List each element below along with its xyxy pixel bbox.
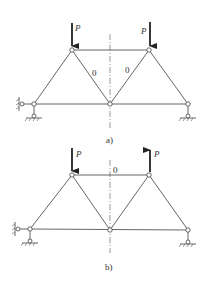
truss-a	[16, 34, 196, 128]
member-zero-right	[110, 50, 149, 104]
node-icon	[28, 227, 32, 231]
load-label: P	[153, 149, 160, 159]
node-icon	[108, 228, 112, 232]
figure-caption: b)	[105, 262, 113, 272]
node-icon	[70, 173, 74, 177]
node-icon	[32, 102, 36, 106]
member-zero-left	[72, 50, 110, 104]
load-label: P	[75, 149, 82, 159]
truss-b	[12, 160, 196, 253]
pin-icon	[20, 102, 24, 106]
load-label: P	[140, 26, 147, 36]
pin-icon	[28, 239, 32, 243]
zero-force-label: 0	[125, 65, 130, 75]
pin-icon	[32, 114, 36, 118]
pin-icon	[186, 114, 190, 118]
node-icon	[70, 48, 74, 52]
zero-force-label: 0	[92, 68, 97, 78]
node-icon	[186, 102, 190, 106]
node-icon	[186, 228, 190, 232]
member-right-diagonal	[149, 50, 188, 104]
node-icon	[108, 102, 112, 106]
pin-icon	[186, 240, 190, 244]
figure-caption: a)	[106, 135, 113, 145]
zero-force-label: 0	[113, 165, 118, 175]
node-icon	[147, 173, 151, 177]
pin-icon	[16, 227, 20, 231]
truss-diagrams: P P 0 0 a) P P 0 b)	[0, 0, 209, 293]
member-left-diagonal	[34, 50, 72, 104]
load-label: P	[74, 23, 81, 33]
node-icon	[147, 48, 151, 52]
truss-b-nodes	[16, 173, 190, 244]
truss-a-nodes	[20, 48, 190, 118]
